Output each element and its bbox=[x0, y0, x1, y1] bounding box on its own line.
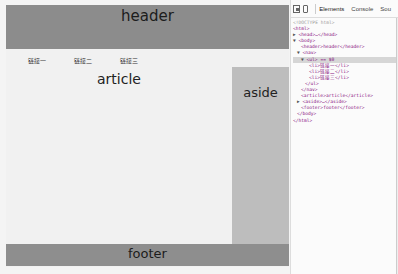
dom-node-text: </ul> bbox=[305, 81, 319, 86]
page-header: header bbox=[6, 5, 289, 49]
dom-node-text: <header>header</header> bbox=[301, 44, 365, 49]
page-aside: aside bbox=[232, 67, 289, 244]
header-text: header bbox=[121, 7, 174, 25]
aside-text: aside bbox=[243, 85, 278, 100]
nav-link-1[interactable]: 链接一 bbox=[28, 56, 46, 65]
dom-node-text: <li>链接三</li> bbox=[309, 75, 349, 80]
toolbar-divider bbox=[315, 4, 316, 14]
dom-node-text: <ul> == $0 bbox=[307, 57, 335, 62]
inspect-element-icon[interactable] bbox=[293, 5, 300, 13]
dom-node-text: <head>…</head> bbox=[299, 32, 338, 37]
dom-node-text: <!DOCTYPE html> bbox=[293, 20, 335, 25]
tab-sources[interactable]: Sou bbox=[380, 6, 391, 12]
dom-node-text: <body> bbox=[299, 38, 316, 43]
dom-node-text: <li>链接一</li> bbox=[309, 63, 349, 68]
nav-link-3[interactable]: 链接三 bbox=[120, 56, 138, 65]
dom-node-text: </nav> bbox=[301, 87, 318, 92]
dom-node-text: <nav> bbox=[303, 50, 317, 55]
dom-node-text: <aside>…</aside> bbox=[303, 99, 347, 104]
article-text: article bbox=[97, 71, 141, 87]
page-footer: footer bbox=[6, 244, 289, 266]
devtools-panel: Elements Console Sou <!DOCTYPE html><htm… bbox=[290, 0, 398, 274]
dom-node-text: <html> bbox=[293, 26, 310, 31]
page-article: article bbox=[6, 69, 232, 244]
dom-node-line[interactable]: </html> bbox=[293, 118, 396, 124]
dom-node-text: <footer>footer</footer> bbox=[301, 105, 365, 110]
dom-node-text: </body> bbox=[297, 111, 316, 116]
dom-node-text: <article>article</article> bbox=[301, 93, 373, 98]
rendered-page: header 链接一 链接二 链接三 article aside footer bbox=[6, 5, 289, 267]
dom-node-text: </html> bbox=[293, 118, 312, 123]
nav-list: 链接一 链接二 链接三 bbox=[6, 49, 289, 65]
tab-console[interactable]: Console bbox=[351, 6, 373, 12]
device-toolbar-icon[interactable] bbox=[303, 5, 308, 13]
footer-text: footer bbox=[128, 246, 167, 261]
dom-node-text: <li>链接二</li> bbox=[309, 69, 349, 74]
elements-tree: <!DOCTYPE html><html>▶ <head>…</head>▼ <… bbox=[291, 18, 398, 126]
tab-elements[interactable]: Elements bbox=[319, 6, 344, 12]
nav-link-2[interactable]: 链接二 bbox=[74, 56, 92, 65]
page-nav: 链接一 链接二 链接三 bbox=[6, 49, 289, 69]
devtools-toolbar: Elements Console Sou bbox=[291, 0, 398, 18]
